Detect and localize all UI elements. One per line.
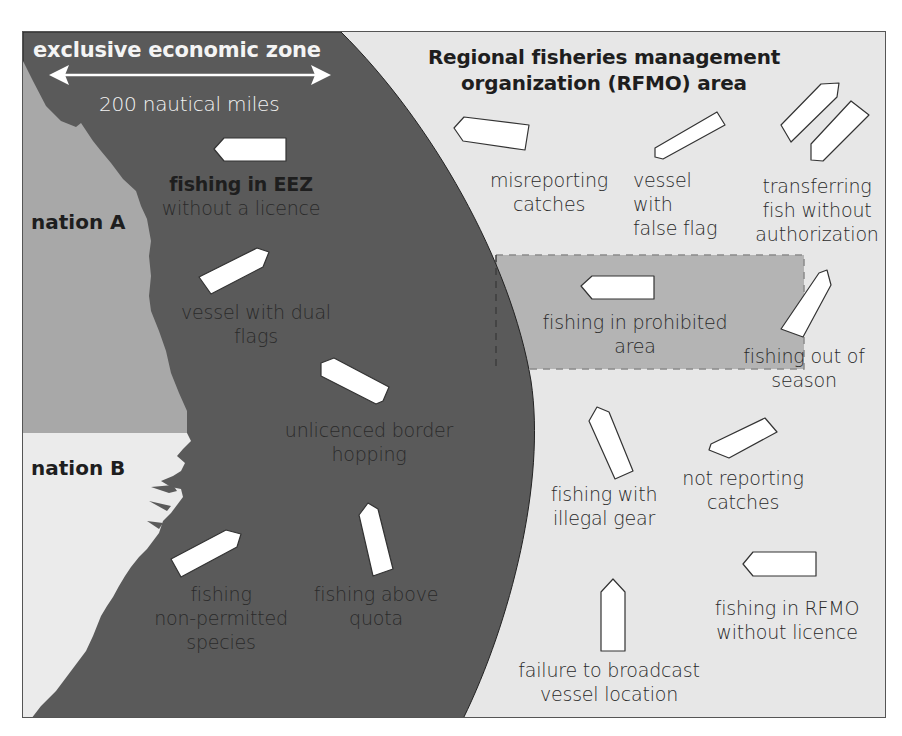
label-fishing-eez-no-licence: fishing in EEZ without a licence [161, 172, 321, 220]
label-dual-flags: vessel with dual flags [171, 300, 341, 348]
label-line: fishing above [301, 582, 451, 606]
label-transferring: transferring fish without authorization [749, 174, 885, 246]
label-line: vessel with dual [171, 300, 341, 324]
label-line: with [633, 192, 717, 216]
label-line: hopping [269, 442, 469, 466]
label-above-quota: fishing above quota [301, 582, 451, 630]
vessel-icon-no-licence [214, 138, 286, 161]
label-rfmo-no-licence: fishing in RFMO without licence [707, 596, 867, 644]
label-line: quota [301, 606, 451, 630]
label-line: fishing in EEZ [161, 172, 321, 196]
label-line: misreporting [479, 168, 619, 192]
vessel-icon-prohibited-area [581, 276, 654, 299]
label-non-permitted-species: fishing non-permitted species [141, 582, 301, 654]
label-line: fish without [749, 198, 885, 222]
eez-distance: 200 nautical miles [99, 92, 279, 116]
label-border-hopping: unlicenced border hopping [269, 418, 469, 466]
label-line: season [729, 368, 879, 392]
label-line: illegal gear [539, 506, 669, 530]
label-line: authorization [749, 222, 885, 246]
rfmo-title: Regional fisheries management organizati… [418, 44, 790, 96]
eez-title: exclusive economic zone [33, 38, 321, 62]
label-prohibited-area: fishing in prohibited area [535, 310, 735, 358]
label-line: transferring [749, 174, 885, 198]
label-line: fishing [141, 582, 301, 606]
nation-b-label: nation B [31, 456, 125, 480]
label-line: vessel [633, 168, 717, 192]
label-line: unlicenced border [269, 418, 469, 442]
label-out-of-season: fishing out of season [729, 344, 879, 392]
diagram-frame: exclusive economic zone 200 nautical mil… [22, 31, 886, 718]
label-line: catches [673, 490, 813, 514]
label-line: false flag [633, 216, 717, 240]
label-line: without licence [707, 620, 867, 644]
label-line: flags [171, 324, 341, 348]
label-line: without a licence [161, 196, 321, 220]
label-line: area [535, 334, 735, 358]
label-no-broadcast: failure to broadcast vessel location [509, 658, 709, 706]
label-not-reporting: not reporting catches [673, 466, 813, 514]
vessel-icon-no-broadcast [601, 579, 625, 651]
vessel-icon-rfmo-no-licence [743, 552, 816, 576]
label-line: species [141, 630, 301, 654]
nation-a-label: nation A [31, 210, 126, 234]
label-misreporting: misreporting catches [479, 168, 619, 216]
label-line: fishing with [539, 482, 669, 506]
label-line: not reporting [673, 466, 813, 490]
label-line: fishing in prohibited [535, 310, 735, 334]
label-line: fishing out of [729, 344, 879, 368]
label-line: fishing in RFMO [707, 596, 867, 620]
label-false-flag: vessel with false flag [633, 168, 717, 240]
label-line: vessel location [509, 682, 709, 706]
label-line: catches [479, 192, 619, 216]
label-line: non-permitted [141, 606, 301, 630]
rfmo-title-line2: organization (RFMO) area [418, 70, 790, 96]
label-illegal-gear: fishing with illegal gear [539, 482, 669, 530]
rfmo-title-line1: Regional fisheries management [418, 44, 790, 70]
label-line: failure to broadcast [509, 658, 709, 682]
